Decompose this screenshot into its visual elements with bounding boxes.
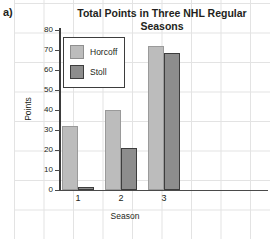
- y-axis-tick-label: 40: [31, 106, 53, 114]
- y-axis-tick-label: 50: [31, 86, 53, 94]
- bar-stoll-season-1: [78, 187, 94, 190]
- y-axis-tick-label: 20: [31, 146, 53, 154]
- y-axis-tick-label: 0: [31, 186, 53, 194]
- y-axis-tick: [55, 150, 60, 151]
- bar-stoll-season-2: [121, 148, 137, 190]
- bar-horcoff-season-1: [62, 126, 78, 190]
- legend-label: Horcoff: [90, 47, 117, 57]
- bar-stoll-season-3: [164, 53, 180, 190]
- x-axis-tick-label: 1: [66, 193, 90, 203]
- y-axis-tick: [55, 170, 60, 171]
- x-axis-tick-label: 3: [152, 193, 176, 203]
- bar-horcoff-season-2: [105, 110, 121, 190]
- bar-horcoff-season-3: [148, 46, 164, 190]
- chart-title: Total Points in Three NHL Regular Season…: [58, 7, 266, 33]
- y-axis-tick: [55, 50, 60, 51]
- y-axis-tick: [55, 70, 60, 71]
- x-axis-title: Season: [60, 211, 190, 221]
- y-axis-tick-label: 70: [31, 46, 53, 54]
- x-axis-tick-label: 2: [109, 193, 133, 203]
- chart-legend: HorcoffStoll: [63, 37, 125, 88]
- bar-chart: Total Points in Three NHL Regular Season…: [0, 0, 270, 239]
- y-axis-tick: [55, 30, 60, 31]
- x-axis-line: [59, 190, 268, 192]
- y-axis-tick-label: 10: [31, 166, 53, 174]
- y-axis-tick-label: 60: [31, 66, 53, 74]
- y-axis-tick: [55, 190, 60, 191]
- y-axis-tick: [55, 130, 60, 131]
- y-axis-tick-label: 80: [31, 26, 53, 34]
- legend-swatch-horcoff: [70, 45, 84, 59]
- y-axis-tick: [55, 90, 60, 91]
- y-axis-tick: [55, 110, 60, 111]
- y-axis-tick-label: 30: [31, 126, 53, 134]
- legend-label: Stoll: [90, 67, 107, 77]
- y-axis-title: Points: [23, 79, 33, 139]
- legend-swatch-stoll: [70, 65, 84, 79]
